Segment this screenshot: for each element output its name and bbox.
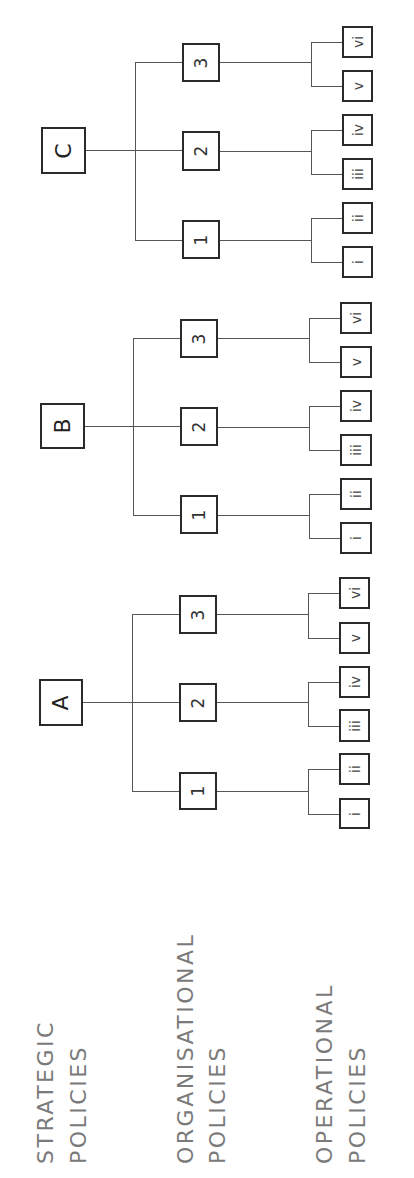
node-label: 2 bbox=[191, 421, 208, 432]
node-label: ii bbox=[351, 214, 365, 222]
node-label: 3 bbox=[191, 333, 208, 344]
node-label: iii bbox=[349, 444, 363, 456]
op-node-b-iv: iv bbox=[340, 390, 372, 422]
node-label: i bbox=[351, 260, 365, 264]
connector bbox=[308, 726, 339, 727]
connector bbox=[311, 174, 342, 175]
op-node-a-v: v bbox=[339, 622, 370, 654]
connector bbox=[311, 42, 312, 86]
node-label: 2 bbox=[190, 697, 207, 708]
op-node-c-v: v bbox=[342, 70, 373, 102]
op-node-a-vi: vi bbox=[339, 577, 370, 609]
connector bbox=[132, 791, 179, 792]
node-label: A bbox=[50, 695, 72, 710]
node-label: v bbox=[348, 634, 362, 642]
level-label-organisational-line2: POLICIES bbox=[207, 1045, 229, 1164]
node-label: ii bbox=[349, 490, 363, 498]
node-label: 1 bbox=[191, 509, 208, 520]
connector bbox=[217, 614, 308, 615]
org-node-c-2: 2 bbox=[182, 131, 220, 171]
connector bbox=[220, 62, 311, 63]
connector bbox=[311, 218, 342, 219]
node-label: vi bbox=[348, 587, 362, 599]
connector bbox=[311, 42, 342, 43]
connector bbox=[311, 130, 312, 174]
node-label: vi bbox=[349, 312, 363, 324]
node-label: B bbox=[52, 418, 74, 433]
connector bbox=[132, 614, 133, 791]
connector bbox=[133, 338, 134, 515]
connector bbox=[217, 791, 308, 792]
connector bbox=[133, 515, 180, 516]
node-label: C bbox=[53, 143, 75, 158]
org-node-b-1: 1 bbox=[180, 495, 218, 534]
org-node-a-3: 3 bbox=[179, 595, 217, 634]
connector bbox=[217, 702, 308, 703]
org-node-a-2: 2 bbox=[179, 683, 217, 722]
connector bbox=[309, 406, 340, 407]
connector bbox=[311, 262, 342, 263]
connector bbox=[311, 130, 342, 131]
op-node-c-ii: ii bbox=[342, 202, 373, 234]
connector bbox=[309, 538, 340, 539]
connector bbox=[309, 318, 340, 319]
node-label: 1 bbox=[193, 234, 210, 245]
org-node-b-3: 3 bbox=[180, 319, 218, 358]
node-label: iv bbox=[351, 124, 365, 136]
connector bbox=[83, 702, 179, 703]
op-node-b-vi: vi bbox=[340, 302, 372, 334]
connector bbox=[218, 338, 309, 339]
connector bbox=[220, 240, 311, 241]
connector bbox=[135, 62, 182, 63]
op-node-b-iii: iii bbox=[340, 434, 372, 466]
org-node-c-3: 3 bbox=[182, 43, 220, 82]
op-node-c-i: i bbox=[342, 246, 373, 278]
op-node-b-v: v bbox=[340, 346, 372, 378]
connector bbox=[308, 814, 339, 815]
node-label: i bbox=[349, 536, 363, 540]
connector bbox=[309, 450, 340, 451]
op-node-c-vi: vi bbox=[342, 26, 373, 58]
node-label: iii bbox=[348, 720, 362, 732]
connector bbox=[308, 593, 339, 594]
op-node-b-i: i bbox=[340, 522, 372, 554]
node-label: ii bbox=[348, 765, 362, 773]
root-node-a: A bbox=[39, 679, 83, 726]
node-label: i bbox=[348, 812, 362, 816]
op-node-a-ii: ii bbox=[339, 753, 370, 785]
connector bbox=[309, 318, 310, 362]
node-label: iv bbox=[348, 676, 362, 688]
node-label: 1 bbox=[190, 786, 207, 797]
op-node-a-i: i bbox=[339, 798, 370, 829]
connector bbox=[132, 614, 179, 615]
op-node-a-iii: iii bbox=[339, 709, 370, 742]
connector bbox=[308, 593, 309, 638]
node-label: iii bbox=[351, 168, 365, 180]
level-label-strategic-line1: STRATEGIC bbox=[35, 1020, 57, 1164]
org-node-c-1: 1 bbox=[182, 220, 220, 259]
level-label-strategic-line2: POLICIES bbox=[68, 1045, 90, 1164]
node-label: v bbox=[351, 82, 365, 90]
op-node-c-iii: iii bbox=[342, 158, 373, 190]
connector bbox=[311, 218, 312, 262]
connector bbox=[86, 150, 182, 151]
connector bbox=[308, 638, 339, 639]
connector bbox=[309, 406, 310, 450]
connector bbox=[218, 427, 309, 428]
root-node-c: C bbox=[41, 127, 86, 174]
connector bbox=[220, 151, 311, 152]
level-label-organisational-line1: ORGANISATIONAL bbox=[175, 933, 197, 1164]
org-node-b-2: 2 bbox=[180, 407, 218, 446]
node-label: iv bbox=[349, 400, 363, 412]
node-label: 3 bbox=[190, 609, 207, 620]
connector bbox=[308, 769, 309, 814]
node-label: v bbox=[349, 358, 363, 366]
node-label: 3 bbox=[193, 57, 210, 68]
connector bbox=[135, 240, 182, 241]
connector bbox=[311, 86, 342, 87]
connector bbox=[309, 362, 340, 363]
connector bbox=[135, 62, 136, 240]
connector bbox=[218, 515, 309, 516]
level-label-operational-line2: POLICIES bbox=[347, 1045, 369, 1164]
root-node-b: B bbox=[40, 403, 85, 449]
